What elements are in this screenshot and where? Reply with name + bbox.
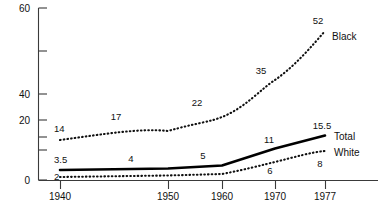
y-axis-label-20: 20	[19, 115, 31, 126]
black-point-label-1970: 35	[256, 65, 267, 76]
total-point-label-1977: 15.5	[313, 120, 332, 131]
black-point-label-1940: 14	[54, 123, 65, 134]
y-axis-label-40: 40	[19, 89, 31, 100]
x-axis-label-1970: 1970	[264, 191, 287, 202]
x-axis-label-1960: 1960	[211, 191, 234, 202]
series-line-black	[60, 31, 325, 140]
chart-canvas: 60 40 20 0 1940 1950 1960 1970 1977 14 1…	[0, 0, 380, 204]
y-axis-label-0: 0	[24, 175, 30, 186]
total-point-label-1960: 5	[200, 150, 205, 161]
series-line-total	[60, 136, 325, 171]
white-point-label-1940: 2	[54, 171, 59, 182]
white-point-label-1977: 8	[317, 158, 322, 169]
black-point-label-1977: 52	[313, 15, 324, 26]
series-name-total: Total	[334, 131, 355, 142]
total-point-label-1940: 3.5	[54, 154, 67, 165]
x-axis-label-1950: 1950	[157, 191, 180, 202]
x-axis	[39, 181, 379, 190]
series-name-white: White	[334, 147, 360, 158]
black-point-label-1960: 22	[192, 97, 203, 108]
total-point-label-1970: 11	[264, 134, 274, 145]
black-point-label-1950: 17	[111, 111, 122, 122]
series-line-white	[60, 151, 325, 177]
series-name-black: Black	[332, 31, 357, 42]
y-axis	[39, 8, 48, 180]
x-axis-label-1940: 1940	[49, 191, 72, 202]
total-point-label-1950: 4	[128, 153, 133, 164]
x-axis-label-1977: 1977	[314, 191, 337, 202]
white-point-label-1970: 6	[267, 165, 272, 176]
line-chart: 60 40 20 0 1940 1950 1960 1970 1977 14 1…	[0, 0, 380, 204]
y-axis-label-60: 60	[19, 3, 31, 14]
